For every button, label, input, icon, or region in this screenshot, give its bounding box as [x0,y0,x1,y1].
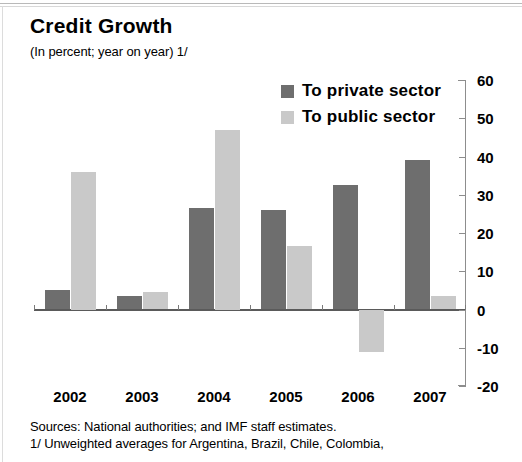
y-axis-tick-label: -10 [477,339,499,356]
x-axis-label-2006: 2006 [341,388,374,405]
y-axis-tick-label: 10 [477,263,494,280]
y-axis-tick [459,157,466,158]
x-axis-label-2003: 2003 [125,388,158,405]
y-axis-tick-label: -20 [477,378,499,395]
y-axis-tick [459,310,466,311]
bar-2002-private [45,290,70,309]
x-axis-labels: 200220032004200520062007 [34,388,466,410]
x-axis-tick [178,305,179,310]
page-top-rule-secondary [0,6,522,7]
x-axis-tick [34,305,35,310]
bar-2003-public [143,292,168,309]
bar-2004-private [189,208,214,309]
page-left-rule [2,6,3,462]
y-axis-tick [459,195,466,196]
y-axis-tick [459,80,466,81]
y-axis-tick-label: 0 [477,301,485,318]
chart-page: Credit Growth (In percent; year on year)… [0,0,522,462]
x-axis-label-2004: 2004 [197,388,230,405]
x-axis-tick [465,305,466,310]
x-axis-label-2002: 2002 [53,388,86,405]
y-axis-tick [459,118,466,119]
bar-2003-private [117,296,142,309]
y-axis-tick [459,348,466,349]
bar-2005-private [261,210,286,309]
y-axis-tick-label: 20 [477,225,494,242]
bar-2006-private [333,185,358,309]
x-axis-tick [106,305,107,310]
note-footnote-1: 1/ Unweighted averages for Argentina, Br… [30,435,520,452]
y-axis-tick-label: 30 [477,186,494,203]
bar-2006-public [359,310,384,352]
x-axis-label-2007: 2007 [413,388,446,405]
bar-2007-private [405,160,430,309]
bar-2005-public [287,246,312,309]
x-axis-tick [322,305,323,310]
plot-area: 6050403020100-10-20 [34,80,466,386]
chart-notes: Sources: National authorities; and IMF s… [30,418,520,452]
x-axis-label-2005: 2005 [269,388,302,405]
y-axis-tick-label: 50 [477,110,494,127]
y-axis-tick [459,386,466,387]
chart-title: Credit Growth [30,14,173,38]
x-axis-tick [394,305,395,310]
chart-subtitle: (In percent; year on year) 1/ [30,44,188,59]
note-sources: Sources: National authorities; and IMF s… [30,418,520,435]
y-axis-tick [459,233,466,234]
x-axis-tick [250,305,251,310]
y-axis-tick [459,271,466,272]
y-axis-tick-label: 40 [477,148,494,165]
y-axis-tick-label: 60 [477,72,494,89]
bar-2004-public [215,130,240,310]
bar-2002-public [71,172,96,310]
bar-2007-public [431,296,456,309]
page-top-rule [0,3,522,4]
